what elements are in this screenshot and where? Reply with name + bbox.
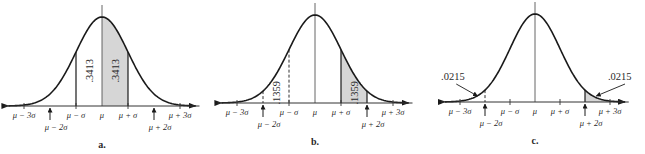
area-label-right: .3413: [110, 59, 121, 83]
tick-label-mu-minus-sigma: μ − σ: [500, 106, 520, 116]
vertical-lines: [485, 2, 610, 102]
panel-label: b.: [311, 136, 320, 147]
tick-label-mu-minus-2sigma: μ − 2σ: [479, 118, 504, 128]
panel-a: .3413 .3413 μ − 3σ μ − 2σ μ − σ μ μ + σ …: [5, 5, 200, 150]
tick-label-mu-plus-3sigma: μ + 3σ: [381, 107, 406, 117]
tick-label-mu-minus-2sigma: μ − 2σ: [257, 119, 282, 129]
tick-label-mu-plus-3sigma: μ + 3σ: [598, 106, 623, 116]
tick-label-mu-minus-sigma: μ − σ: [66, 110, 86, 120]
area-label-left: .0215: [441, 71, 465, 82]
tick-label-mu-plus-2sigma: μ + 2σ: [361, 119, 386, 129]
panel-b: .1359 .1359 μ − 3σ μ − 2σ μ − σ μ μ + σ …: [218, 3, 413, 147]
tick-label-mu: μ: [99, 110, 104, 120]
area-label-right: .0215: [608, 71, 632, 82]
tick-label-mu-plus-3sigma: μ + 3σ: [168, 110, 193, 120]
panel-c: .0215 .0215 μ − 3σ μ − 2σ μ − σ μ μ + σ …: [441, 2, 632, 146]
tick-label-mu-minus-3sigma: μ − 3σ: [448, 106, 473, 116]
tick-label-mu-minus-3sigma: μ − 3σ: [225, 107, 250, 117]
tick-label-mu: μ: [532, 106, 537, 116]
area-label-left: .3413: [84, 59, 95, 83]
tick-label-mu-plus-sigma: μ + σ: [550, 106, 570, 116]
pointer-arrow-right: [596, 84, 625, 96]
tick-label-mu-plus-2sigma: μ + 2σ: [148, 122, 173, 132]
tick-label-mu-plus-2sigma: μ + 2σ: [579, 118, 604, 128]
tick-label-mu-minus-2sigma: μ − 2σ: [44, 122, 69, 132]
tick-label-mu-minus-sigma: μ − σ: [279, 107, 299, 117]
tick-label-mu-plus-sigma: μ + σ: [118, 110, 138, 120]
tick-label-mu: μ: [312, 107, 317, 117]
area-label-right: .1359: [349, 81, 360, 105]
tick-label-mu-minus-3sigma: μ − 3σ: [12, 110, 37, 120]
area-label-left: .1359: [271, 81, 282, 105]
panel-label: a.: [98, 139, 106, 150]
pointer-arrow-left: [456, 84, 477, 96]
panel-label: c.: [532, 135, 539, 146]
tick-label-mu-plus-sigma: μ + σ: [331, 107, 351, 117]
normal-distribution-figure: .3413 .3413 μ − 3σ μ − 2σ μ − σ μ μ + σ …: [0, 0, 645, 154]
